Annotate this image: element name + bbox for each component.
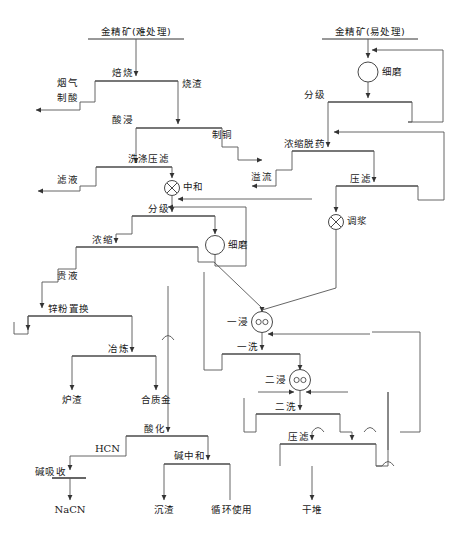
acidify-label: 酸化: [144, 423, 165, 434]
leach-1-label: 一浸: [227, 316, 248, 327]
filtrate-label: 滤液: [57, 174, 78, 185]
classify-right-label: 分级: [304, 89, 325, 100]
acid-leach-label: 酸浸: [112, 114, 133, 125]
feed-refractory-label: 金精矿(难处理): [101, 26, 171, 37]
classify-left-label: 分级: [148, 203, 169, 214]
slurry-mix-label: 调浆: [347, 215, 368, 226]
press-filter-1-label: 压滤: [350, 173, 371, 184]
zinc-cementation-label: 锌粉置换: [48, 303, 89, 314]
precipitate-output-label: 沉渣: [154, 504, 175, 515]
flue-gas-label: 烟气: [57, 77, 78, 88]
copper-making-label: 制铜: [212, 129, 233, 140]
slag-output-label: 炉渣: [62, 394, 83, 405]
fine-grind-right-label: 细磨: [382, 66, 403, 77]
calcine-label: 烧渣: [182, 78, 203, 89]
thicken-label: 浓缩: [92, 234, 113, 245]
alkali-neutral-label: 碱中和: [174, 450, 205, 461]
bullion-output-label: 合质金: [141, 394, 172, 405]
overflow-label: 溢流: [251, 171, 272, 182]
acid-making-label: 制酸: [57, 92, 78, 103]
wash-2-label: 二洗: [275, 401, 296, 412]
wash-1-label: 一洗: [237, 341, 258, 352]
neutralize-label: 中和: [183, 181, 204, 192]
thicken-strip-label: 浓缩脱药: [284, 138, 325, 149]
recycle-output-label: 循环使用: [211, 504, 252, 515]
smelting-label: 冶炼: [108, 343, 129, 354]
hcn-label: HCN: [95, 443, 120, 454]
dry-stack-output-label: 干堆: [302, 504, 323, 515]
pregnant-solution-label: 贵液: [57, 270, 78, 281]
leach-2-label: 二浸: [265, 374, 286, 385]
roasting-label: 焙烧: [112, 67, 133, 78]
wash-press-filter-label: 洗涤压滤: [128, 153, 169, 164]
flowchart-canvas: 金精矿(难处理) 焙烧 烟气 制酸 烧渣 酸浸 制铜 洗涤压滤 滤液 中和 分级…: [0, 0, 474, 557]
nacn-output-label: NaCN: [54, 504, 85, 515]
press-filter-2-label: 压滤: [288, 431, 309, 442]
fine-grind-mid-label: 细磨: [228, 239, 249, 250]
feed-free-milling-label: 金精矿(易处理): [335, 26, 405, 37]
alkali-absorb-label: 碱吸收: [35, 466, 66, 477]
